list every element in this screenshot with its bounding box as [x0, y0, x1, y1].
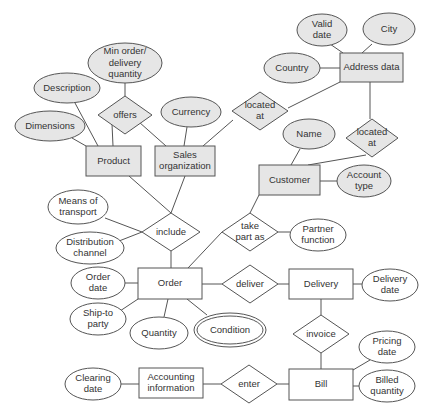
- connector-line: [184, 127, 187, 146]
- connector-line: [105, 218, 142, 232]
- attribute-currency-label: Currency: [172, 106, 211, 117]
- connector-line: [353, 360, 370, 370]
- relationship-deliver: deliver: [222, 265, 278, 303]
- attribute-currency: Currency: [161, 97, 221, 127]
- relationship-take-part-as-label: part as: [235, 231, 264, 242]
- relationship-deliver-label: deliver: [236, 278, 264, 289]
- attribute-delivery-date: Deliverydate: [362, 269, 418, 301]
- entity-address-data: Address data: [340, 53, 403, 82]
- entity-product: Product: [86, 146, 141, 176]
- attribute-country: Country: [264, 53, 320, 83]
- connector-line: [171, 176, 185, 213]
- connector-line: [164, 299, 168, 317]
- relationship-located-at-1-label: located: [245, 99, 276, 110]
- attribute-account-type-label: type: [355, 180, 373, 191]
- relationships: offerslocatedatlocatedatincludetakepart …: [98, 92, 398, 403]
- connector-line: [308, 155, 366, 165]
- relationship-located-at-1: locatedat: [232, 92, 288, 130]
- attribute-dimensions: Dimensions: [15, 111, 85, 141]
- attribute-account-type-label: Account: [347, 169, 382, 180]
- connector-line: [250, 195, 259, 213]
- entity-accounting-info-label: information: [148, 382, 195, 393]
- relationship-located-at-2-label: located: [357, 126, 388, 137]
- attribute-clearing-date-label: Clearing: [75, 372, 110, 383]
- attribute-ship-to-party-label: Ship-to: [83, 307, 113, 318]
- attribute-partner-function: Partnerfunction: [290, 219, 346, 251]
- relationship-offers: offers: [98, 96, 152, 134]
- connector-line: [72, 138, 86, 146]
- entity-accounting-info-label: Accounting: [147, 371, 194, 382]
- attribute-delivery-date-label: Delivery: [373, 273, 408, 284]
- entity-customer-label: Customer: [269, 174, 310, 185]
- entity-sales-org: Salesorganization: [155, 146, 215, 176]
- attribute-billed-quantity: Billedquantity: [359, 370, 415, 402]
- attribute-valid-date: Validdate: [297, 14, 347, 46]
- attribute-description: Description: [34, 73, 100, 103]
- attribute-ship-to-party-label: party: [87, 318, 108, 329]
- relationship-take-part-as: takepart as: [222, 213, 278, 251]
- relationship-enter-label: enter: [238, 378, 260, 389]
- er-diagram: Min order/deliveryquantityDescriptionDim…: [0, 0, 433, 416]
- relationship-include: include: [142, 213, 200, 251]
- relationship-invoice: invoice: [293, 315, 349, 353]
- relationship-located-at-2: locatedat: [346, 119, 398, 157]
- attribute-billed-quantity-label: quantity: [370, 385, 404, 396]
- attribute-order-date: Orderdate: [71, 267, 125, 299]
- attribute-description-label: Description: [43, 82, 91, 93]
- attribute-condition-label: Condition: [210, 324, 250, 335]
- connector-line: [129, 176, 171, 213]
- attribute-valid-date-label: Valid: [312, 18, 332, 29]
- attribute-billed-quantity-label: Billed: [375, 374, 398, 385]
- attribute-name: Name: [283, 119, 335, 149]
- relationship-located-at-1-label: at: [256, 110, 264, 121]
- connector-line: [120, 299, 138, 311]
- relationship-enter: enter: [221, 365, 277, 403]
- connector-line: [119, 232, 142, 241]
- entity-order: Order: [138, 268, 202, 299]
- attribute-order-date-label: Order: [86, 271, 110, 282]
- attribute-ship-to-party: Ship-toparty: [70, 303, 126, 335]
- attribute-quantity: Quantity: [130, 317, 188, 349]
- connector-line: [139, 122, 166, 146]
- attribute-means-of-transport: Means oftransport: [48, 190, 108, 224]
- relationship-take-part-as-label: take: [241, 220, 259, 231]
- attribute-clearing-date-label: date: [84, 383, 103, 394]
- entity-address-data-label: Address data: [344, 61, 401, 72]
- entity-delivery-label: Delivery: [304, 278, 339, 289]
- entity-customer: Customer: [259, 165, 320, 195]
- attribute-pricing-date-label: date: [378, 346, 397, 357]
- entity-product-label: Product: [97, 155, 130, 166]
- entity-bill-label: Bill: [315, 378, 328, 389]
- connector-line: [291, 149, 300, 165]
- attribute-min-order-label: Min order/: [104, 45, 147, 56]
- attribute-min-order-label: quantity: [108, 68, 142, 79]
- attribute-means-of-transport-label: Means of: [58, 195, 97, 206]
- connector-line: [362, 44, 372, 53]
- attribute-order-date-label: date: [89, 282, 108, 293]
- relationship-include-label: include: [156, 226, 186, 237]
- connector-line: [187, 299, 207, 315]
- relationship-offers-label: offers: [113, 109, 137, 120]
- attribute-country-label: Country: [275, 62, 309, 73]
- attribute-partner-function-label: function: [301, 234, 334, 245]
- connector-line: [112, 124, 113, 146]
- connector-line: [188, 232, 222, 268]
- attribute-distribution-channel-label: channel: [73, 247, 106, 258]
- attribute-city: City: [363, 13, 415, 45]
- attribute-city-label: City: [381, 23, 398, 34]
- attribute-distribution-channel-label: Distribution: [66, 236, 114, 247]
- relationship-located-at-2-label: at: [368, 137, 376, 148]
- attribute-partner-function-label: Partner: [302, 223, 333, 234]
- entity-sales-org-label: Sales: [173, 149, 197, 160]
- attribute-name-label: Name: [296, 128, 321, 139]
- attribute-min-order: Min order/deliveryquantity: [88, 43, 162, 83]
- attribute-delivery-date-label: date: [381, 284, 400, 295]
- entity-bill: Bill: [289, 369, 353, 400]
- relationship-invoice-label: invoice: [306, 328, 336, 339]
- entity-delivery: Delivery: [289, 269, 353, 299]
- connector-line: [288, 82, 340, 108]
- attribute-means-of-transport-label: transport: [59, 206, 97, 217]
- attribute-pricing-date: Pricingdate: [359, 331, 415, 363]
- attribute-condition: Condition: [194, 313, 266, 347]
- entity-order-label: Order: [158, 277, 182, 288]
